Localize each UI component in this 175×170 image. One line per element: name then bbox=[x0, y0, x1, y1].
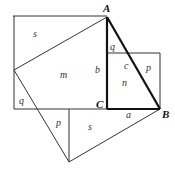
label-s-bottom: s bbox=[88, 121, 92, 132]
vertex-B: B bbox=[161, 108, 169, 120]
label-p-bottom: p bbox=[55, 117, 61, 128]
label-c: c bbox=[124, 60, 129, 71]
label-n: n bbox=[122, 77, 127, 88]
vertex-C: C bbox=[96, 98, 104, 110]
label-s-top: s bbox=[33, 28, 37, 39]
pythagoras-diagram: A B C s m b q c p n q p s a bbox=[0, 0, 175, 170]
label-q-top: q bbox=[110, 41, 115, 52]
label-q-left: q bbox=[19, 95, 24, 106]
label-a: a bbox=[126, 109, 131, 120]
bottom-to-B bbox=[69, 109, 160, 162]
diag-left-to-A bbox=[14, 17, 107, 70]
triangle-ABC bbox=[107, 17, 160, 109]
side-AB bbox=[107, 17, 160, 109]
label-p-right: p bbox=[145, 62, 151, 73]
label-b: b bbox=[95, 64, 100, 75]
vertex-A: A bbox=[102, 2, 110, 14]
diag-left-to-bottom bbox=[14, 70, 69, 162]
label-m: m bbox=[60, 69, 67, 80]
